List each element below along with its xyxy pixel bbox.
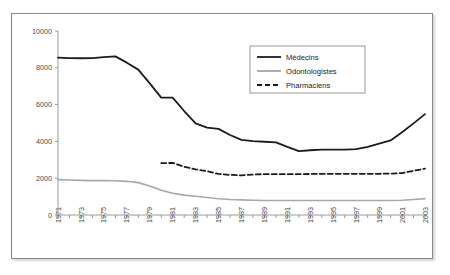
y-tick-label: 8000 bbox=[36, 63, 52, 72]
series-line bbox=[58, 56, 425, 151]
series-line bbox=[161, 163, 425, 176]
y-tick-label: 10000 bbox=[32, 27, 52, 36]
line-chart[interactable]: 0200040006000800010000 19711973197519771… bbox=[0, 0, 450, 275]
legend-label: Pharmaciens bbox=[286, 81, 331, 90]
y-tick-label: 4000 bbox=[36, 137, 52, 146]
y-axis-tick-labels: 0200040006000800010000 bbox=[32, 27, 52, 220]
chart-figure: 0200040006000800010000 19711973197519771… bbox=[0, 0, 450, 275]
y-tick-label: 0 bbox=[48, 211, 52, 220]
series-line bbox=[58, 180, 425, 201]
legend-label: Odontologistes bbox=[286, 67, 337, 76]
y-tick-label: 6000 bbox=[36, 100, 52, 109]
data-series-group bbox=[58, 56, 425, 200]
chart-legend[interactable]: MédecinsOdontologistesPharmaciens bbox=[250, 46, 365, 93]
y-tick-label: 2000 bbox=[36, 174, 52, 183]
legend-label: Médecins bbox=[286, 53, 319, 62]
